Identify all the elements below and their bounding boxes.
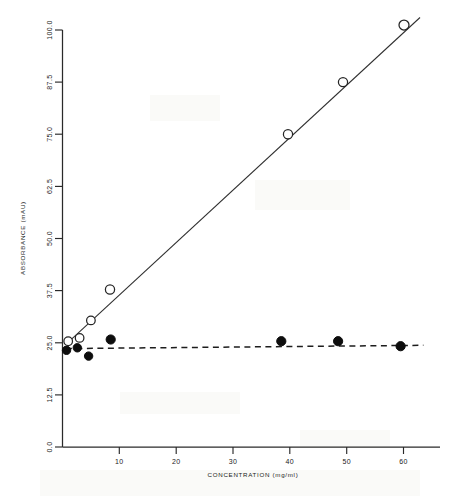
- y-tick-label-75: 75.0: [46, 127, 53, 142]
- x-tick-label-60: 60: [399, 458, 408, 465]
- y-tick-label-50: 50.0: [46, 231, 53, 246]
- x-tick-label-20: 20: [172, 458, 181, 465]
- y-tick-label-62-5: 62.5: [46, 179, 53, 194]
- absorbance-concentration-chart: 100.0 87.5 75.0 62.5 50.0 37.5 25.0 12.5…: [0, 0, 449, 498]
- data-point-filled: [73, 344, 81, 352]
- data-point-open: [87, 316, 96, 325]
- y-tick-label-12-5: 12.5: [46, 387, 53, 402]
- y-tick-label-37-5: 37.5: [46, 283, 53, 298]
- data-point-open: [75, 334, 84, 343]
- y-tick-label-87-5: 87.5: [46, 74, 53, 89]
- data-point-filled: [396, 342, 405, 351]
- y-axis-title: ABSORBANCE (mAU): [19, 201, 26, 275]
- figure-background: [0, 0, 449, 498]
- x-tick-label-10: 10: [115, 458, 124, 465]
- data-point-filled: [62, 346, 70, 354]
- data-point-open: [399, 20, 409, 30]
- data-point-open: [338, 78, 347, 87]
- data-point-open: [283, 130, 292, 139]
- x-axis-title: CONCENTRATION (mg/ml): [208, 471, 299, 478]
- data-point-filled: [334, 337, 343, 346]
- data-point-open: [64, 337, 73, 346]
- x-tick-label-50: 50: [342, 458, 351, 465]
- x-tick-label-30: 30: [229, 458, 238, 465]
- data-point-open: [105, 285, 114, 294]
- data-point-filled: [277, 337, 286, 346]
- data-point-filled: [84, 352, 92, 360]
- x-tick-label-40: 40: [286, 458, 295, 465]
- y-tick-label-0: 0.0: [46, 442, 53, 453]
- y-axis-tick-labels: 100.0 87.5 75.0 62.5 50.0 37.5 25.0 12.5…: [46, 20, 53, 452]
- y-tick-label-100: 100.0: [46, 20, 53, 40]
- y-tick-label-25: 25.0: [46, 335, 53, 350]
- data-point-filled: [106, 335, 115, 344]
